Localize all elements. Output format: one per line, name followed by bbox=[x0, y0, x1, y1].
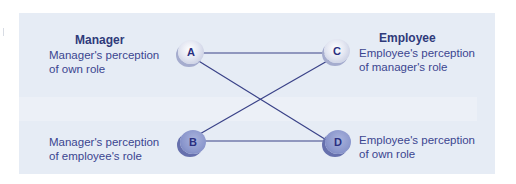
node-c: C bbox=[324, 39, 350, 63]
node-b: B bbox=[180, 130, 206, 154]
node-b-label-line-2: of employee's role bbox=[49, 149, 159, 163]
node-d: D bbox=[325, 130, 351, 154]
node-b-label-line-1: Manager's perception bbox=[49, 135, 159, 149]
employee-heading: Employee bbox=[379, 31, 436, 45]
node-c-label-line-1: Employee's perception bbox=[359, 46, 475, 60]
node-b-label: Manager's perception of employee's role bbox=[49, 135, 159, 163]
node-a-label-line-1: Manager's perception bbox=[49, 48, 159, 62]
node-d-label: Employee's perception of own role bbox=[359, 133, 475, 161]
manager-heading: Manager bbox=[75, 33, 124, 47]
edge-b-c bbox=[198, 60, 329, 135]
node-a: A bbox=[178, 40, 204, 64]
node-d-label-line-2: of own role bbox=[359, 147, 475, 161]
node-c-label-line-2: of manager's role bbox=[359, 60, 475, 74]
node-c-label: Employee's perception of manager's role bbox=[359, 46, 475, 74]
node-a-label-line-2: of own role bbox=[49, 62, 159, 76]
node-d-label-line-1: Employee's perception bbox=[359, 133, 475, 147]
node-a-label: Manager's perception of own role bbox=[49, 48, 159, 76]
